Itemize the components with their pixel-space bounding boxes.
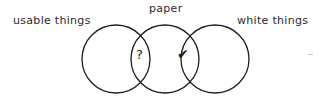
question-mark-symbol: ? — [136, 48, 143, 61]
checkmark-symbol: ✔ — [177, 47, 189, 61]
circle-white-things — [181, 25, 249, 93]
label-usable-things: usable things — [13, 15, 91, 26]
scan-artifact-speck — [308, 54, 313, 55]
venn-diagram-canvas: usable things paper white things ? ✔ — [0, 0, 329, 99]
label-white-things: white things — [237, 15, 308, 26]
label-paper: paper — [149, 3, 183, 14]
